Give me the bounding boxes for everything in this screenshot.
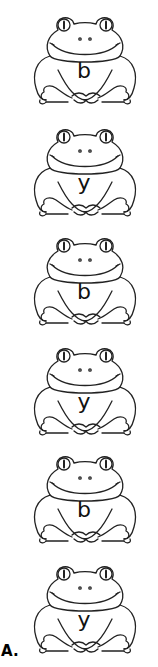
frog-letter: b bbox=[22, 281, 146, 303]
frog-letter: y bbox=[22, 172, 146, 194]
frog-card: b bbox=[22, 8, 146, 108]
frog-card: b bbox=[22, 447, 146, 547]
frog-letter: b bbox=[22, 60, 146, 82]
frog-letter: b bbox=[22, 499, 146, 521]
frog-card: y bbox=[22, 557, 146, 657]
frog-card: y bbox=[22, 120, 146, 220]
frog-letter: y bbox=[22, 391, 146, 413]
frog-card: b bbox=[22, 229, 146, 329]
section-label: A. bbox=[1, 642, 19, 660]
frog-card: y bbox=[22, 339, 146, 439]
frog-letter: y bbox=[22, 609, 146, 631]
